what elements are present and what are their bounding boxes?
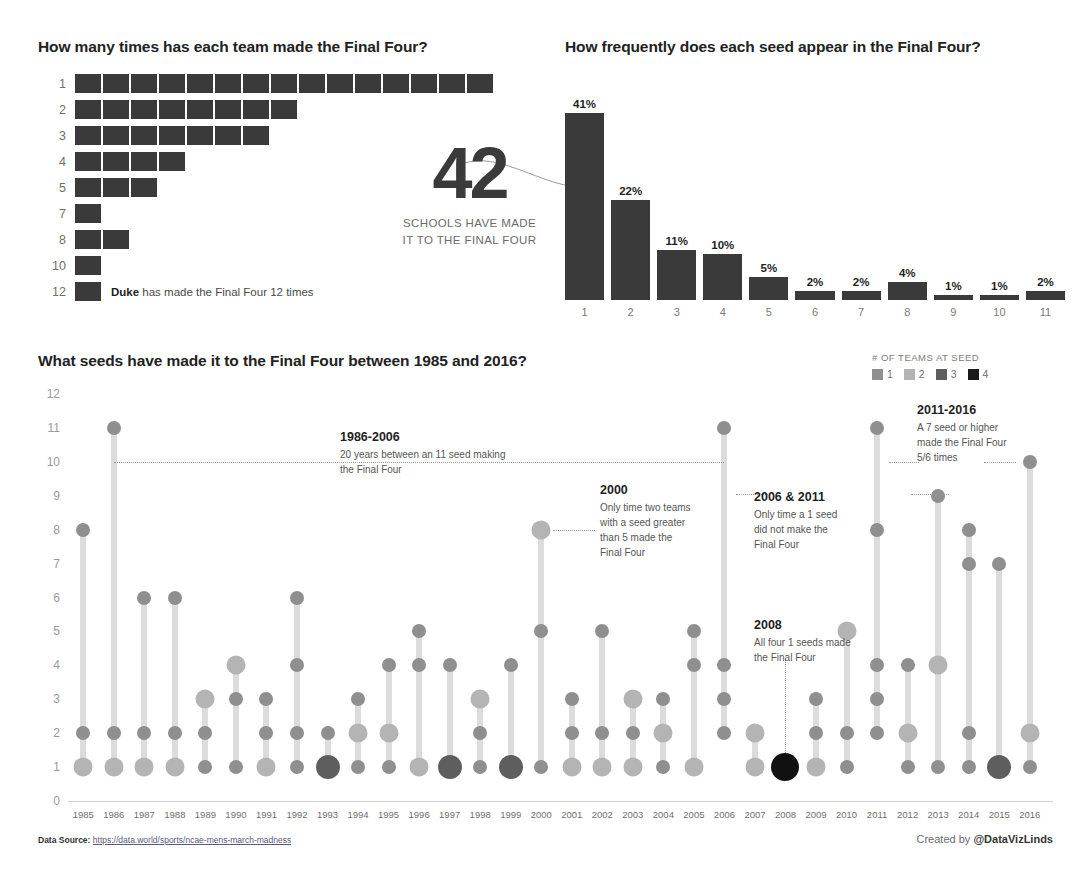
dot-plot-point[interactable] <box>623 758 642 777</box>
bar[interactable] <box>703 254 742 300</box>
bar-column[interactable]: 2% <box>795 68 834 300</box>
dot-plot-point[interactable] <box>656 692 670 706</box>
dot-plot-point[interactable] <box>1023 455 1037 469</box>
dot-plot-point[interactable] <box>656 760 670 774</box>
dot-plot-point[interactable] <box>931 489 945 503</box>
dot-plot-point[interactable] <box>840 726 854 740</box>
dot-plot-point[interactable] <box>623 690 642 709</box>
dot-plot-point[interactable] <box>870 658 884 672</box>
dot-plot-point[interactable] <box>382 760 396 774</box>
dot-plot-point[interactable] <box>229 760 243 774</box>
dot-plot-point[interactable] <box>107 726 121 740</box>
dot-plot-point[interactable] <box>382 658 396 672</box>
dot-plot-point[interactable] <box>565 726 579 740</box>
dot-plot-point[interactable] <box>257 758 276 777</box>
dot-plot-point[interactable] <box>76 523 90 537</box>
data-source-url[interactable]: https://data.world/sports/ncae-mens-marc… <box>93 835 291 845</box>
dot-plot-point[interactable] <box>321 726 335 740</box>
bar[interactable] <box>611 200 650 300</box>
dot-plot-point[interactable] <box>259 692 273 706</box>
bar[interactable] <box>1026 291 1065 300</box>
dot-plot-point[interactable] <box>290 591 304 605</box>
dot-plot-point[interactable] <box>168 591 182 605</box>
dot-plot-point[interactable] <box>717 692 731 706</box>
dot-plot-point[interactable] <box>379 724 398 743</box>
dot-plot-point[interactable] <box>593 758 612 777</box>
bar[interactable] <box>842 291 881 300</box>
dot-plot-point[interactable] <box>1020 724 1039 743</box>
dot-plot-point[interactable] <box>229 692 243 706</box>
dot-plot-point[interactable] <box>901 760 915 774</box>
dot-plot-point[interactable] <box>687 658 701 672</box>
dot-plot-point[interactable] <box>717 726 731 740</box>
dot-plot-point[interactable] <box>290 726 304 740</box>
dot-plot-point[interactable] <box>771 753 799 781</box>
dot-plot-point[interactable] <box>351 760 365 774</box>
dot-plot-point[interactable] <box>74 758 93 777</box>
dot-plot-point[interactable] <box>745 724 764 743</box>
dot-plot-point[interactable] <box>840 760 854 774</box>
dot-plot-point[interactable] <box>595 726 609 740</box>
dot-plot-point[interactable] <box>412 624 426 638</box>
dot-plot-point[interactable] <box>870 692 884 706</box>
dot-plot-point[interactable] <box>962 523 976 537</box>
dot-plot-point[interactable] <box>473 760 487 774</box>
dot-plot-point[interactable] <box>226 656 245 675</box>
dot-plot-point[interactable] <box>717 658 731 672</box>
dot-plot-point[interactable] <box>992 557 1006 571</box>
dot-plot-point[interactable] <box>687 624 701 638</box>
dot-plot-point[interactable] <box>1023 760 1037 774</box>
dot-plot-point[interactable] <box>438 755 462 779</box>
dot-plot-point[interactable] <box>962 726 976 740</box>
dot-plot-point[interactable] <box>534 624 548 638</box>
dot-plot-point[interactable] <box>499 755 523 779</box>
bar[interactable] <box>795 291 834 300</box>
dot-plot-point[interactable] <box>198 760 212 774</box>
dot-plot-point[interactable] <box>534 760 548 774</box>
dot-plot-point[interactable] <box>135 758 154 777</box>
bar-column[interactable]: 2% <box>1026 68 1065 300</box>
bar[interactable] <box>749 277 788 300</box>
bar[interactable] <box>888 282 927 300</box>
bar-column[interactable]: 5% <box>749 68 788 300</box>
dot-plot-point[interactable] <box>532 520 551 539</box>
bar[interactable] <box>934 295 973 300</box>
dot-plot-point[interactable] <box>898 724 917 743</box>
dot-plot-point[interactable] <box>351 692 365 706</box>
dot-plot-point[interactable] <box>168 726 182 740</box>
dot-plot-point[interactable] <box>290 658 304 672</box>
dot-plot-point[interactable] <box>290 760 304 774</box>
bar[interactable] <box>980 295 1019 300</box>
dot-plot-point[interactable] <box>104 758 123 777</box>
dot-plot-point[interactable] <box>198 726 212 740</box>
dot-plot-point[interactable] <box>809 726 823 740</box>
dot-plot-point[interactable] <box>196 690 215 709</box>
dot-plot-point[interactable] <box>165 758 184 777</box>
dot-plot-point[interactable] <box>473 726 487 740</box>
dot-plot-point[interactable] <box>410 758 429 777</box>
dot-plot-point[interactable] <box>809 692 823 706</box>
dot-plot-point[interactable] <box>870 726 884 740</box>
dot-plot-point[interactable] <box>562 758 581 777</box>
dot-plot-point[interactable] <box>349 724 368 743</box>
dot-plot-point[interactable] <box>595 624 609 638</box>
dot-plot-point[interactable] <box>412 658 426 672</box>
dot-plot-point[interactable] <box>717 421 731 435</box>
dot-plot-point[interactable] <box>962 557 976 571</box>
dot-plot-point[interactable] <box>504 658 518 672</box>
dot-plot-point[interactable] <box>929 656 948 675</box>
dot-plot-point[interactable] <box>565 692 579 706</box>
dot-plot-point[interactable] <box>626 726 640 740</box>
dot-plot-point[interactable] <box>259 726 273 740</box>
dot-plot-point[interactable] <box>684 758 703 777</box>
dot-plot-point[interactable] <box>137 591 151 605</box>
dot-plot-point[interactable] <box>987 755 1011 779</box>
bar-column[interactable]: 2% <box>842 68 881 300</box>
bar[interactable] <box>565 113 604 300</box>
bar-column[interactable]: 1% <box>934 68 973 300</box>
dot-plot-point[interactable] <box>807 758 826 777</box>
dot-plot-point[interactable] <box>443 658 457 672</box>
dot-plot-point[interactable] <box>870 523 884 537</box>
dot-plot-point[interactable] <box>471 690 490 709</box>
dot-plot-point[interactable] <box>107 421 121 435</box>
